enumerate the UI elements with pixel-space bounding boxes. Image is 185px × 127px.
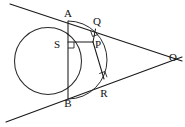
point-label-p: P (95, 38, 101, 50)
point-label-r: R (100, 87, 108, 99)
inscribed-circle (15, 28, 82, 95)
point-label-q: Q (93, 15, 101, 27)
point-label-s: S (54, 38, 60, 50)
geometry-figure: A Q O S P R B (0, 0, 185, 127)
point-label-a: A (64, 7, 72, 19)
point-label-o: O (169, 51, 177, 63)
right-angle-mark-s (68, 42, 74, 48)
geometry-canvas: A Q O S P R B (0, 0, 185, 127)
point-label-b: B (64, 97, 71, 109)
